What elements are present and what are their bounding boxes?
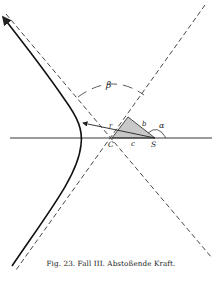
asymptote-2 [16,5,205,270]
label-S: S [151,140,156,149]
hyperbola-diagram: β α r b c C S [0,0,222,283]
hyperbola-branch [3,17,81,266]
label-C: C [108,140,114,149]
label-alpha: α [159,121,165,130]
label-c: c [131,140,135,148]
shaded-sector [112,117,155,138]
asymptote-1 [6,14,212,258]
label-b: b [142,120,147,128]
figure-caption: Fig. 23. Fall III. Abstoßende Kraft. [0,259,222,268]
label-beta: β [105,80,111,90]
